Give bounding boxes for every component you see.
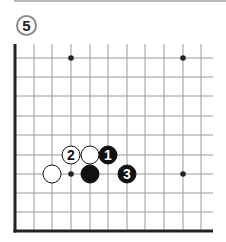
move-number: 3 xyxy=(123,166,131,182)
board-grid xyxy=(14,44,214,233)
black-stone: 1 xyxy=(99,146,117,164)
move-number: 2 xyxy=(67,147,75,163)
black-stone xyxy=(81,165,99,183)
star-point-icon xyxy=(180,55,186,61)
move-number: 1 xyxy=(104,147,112,163)
star-point-icon xyxy=(68,171,74,177)
white-stone-icon xyxy=(43,165,61,183)
white-stone-icon xyxy=(81,146,99,164)
go-board: 123 xyxy=(0,0,226,242)
white-stone: 2 xyxy=(62,146,80,164)
black-stone: 3 xyxy=(118,165,136,183)
white-stone xyxy=(81,146,99,164)
white-stone xyxy=(43,165,61,183)
black-stone-icon xyxy=(81,165,99,183)
star-point-icon xyxy=(68,55,74,61)
star-point-icon xyxy=(180,171,186,177)
